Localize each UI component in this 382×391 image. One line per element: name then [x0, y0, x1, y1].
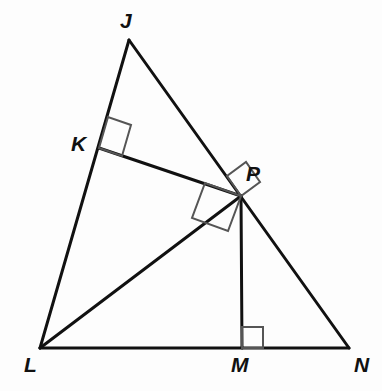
side-jl	[40, 40, 129, 348]
right-angle-mark-m	[242, 327, 263, 348]
right-angle-mark-p-lower	[192, 183, 241, 231]
altitude-lp	[40, 196, 241, 348]
geometry-figure: JKPLMN	[0, 0, 382, 391]
vertex-label-k: K	[71, 133, 86, 154]
vertex-label-m: M	[231, 354, 249, 375]
geometry-canvas	[0, 0, 382, 391]
altitude-pm	[241, 196, 242, 348]
vertex-label-n: N	[354, 354, 369, 375]
vertex-label-l: L	[24, 354, 37, 375]
segments-group	[40, 40, 349, 348]
right-angle-marks-group	[99, 117, 263, 348]
vertex-label-p: P	[246, 163, 260, 184]
vertex-label-j: J	[120, 10, 132, 31]
